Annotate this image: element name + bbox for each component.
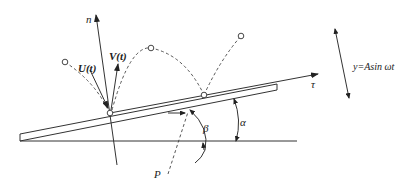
trajectory-arc-2	[204, 36, 241, 95]
alpha-label: α	[240, 116, 246, 128]
impact-point-2	[201, 92, 207, 98]
particle-point-apex-1	[148, 45, 154, 51]
normal-axis-label: n	[86, 13, 92, 25]
inclined-plate	[20, 84, 277, 141]
tau-axis-label: τ	[311, 78, 316, 90]
p-line	[168, 112, 188, 174]
incoming-velocity-arrow	[90, 70, 108, 108]
vibration-equation-label: y=Asin ωt	[352, 61, 395, 72]
alpha-angle-arc	[234, 99, 239, 141]
particle-point-start	[62, 59, 68, 65]
outgoing-velocity-arrow	[111, 64, 118, 110]
impact-point-1	[107, 110, 113, 116]
vibration-arrow	[335, 29, 349, 98]
beta-arc-arrow	[203, 143, 204, 150]
point-p-label: P	[153, 168, 161, 180]
beta-angle-arc	[190, 110, 206, 163]
beta-label: β	[202, 122, 209, 134]
bouncing-particle-diagram: n τ V(t) U(t) α β P y=Asin ωt	[0, 0, 407, 184]
velocity-out-label: V(t)	[109, 50, 127, 63]
velocity-in-label: U(t)	[78, 62, 96, 75]
tau-axis	[110, 74, 318, 113]
particle-point-apex-2	[238, 33, 244, 39]
